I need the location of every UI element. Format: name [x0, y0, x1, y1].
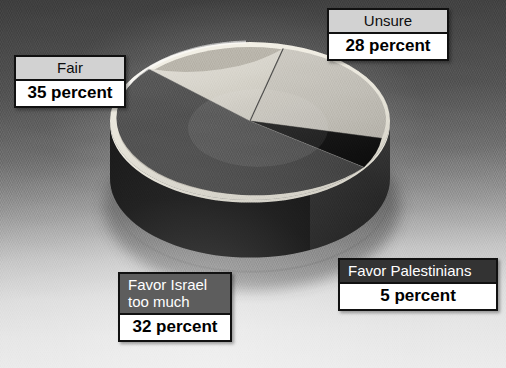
callout-favor-palestinians-value: 5 percent [340, 284, 496, 309]
callout-favor-israel: Favor Israel too much 32 percent [118, 272, 232, 342]
pie-chart-graphic: Fair 35 percent Unsure 28 percent Favor … [0, 0, 506, 368]
callout-fair: Fair 35 percent [14, 55, 126, 108]
callout-unsure-value: 28 percent [329, 34, 447, 59]
callout-unsure-title: Unsure [329, 10, 447, 34]
callout-fair-title: Fair [16, 57, 124, 81]
callout-favor-palestinians-title: Favor Palestinians [340, 260, 496, 284]
callout-fair-value: 35 percent [16, 81, 124, 106]
callout-favor-israel-value: 32 percent [120, 315, 230, 340]
callout-unsure: Unsure 28 percent [327, 8, 449, 61]
callout-favor-palestinians: Favor Palestinians 5 percent [338, 258, 498, 311]
callout-favor-israel-title: Favor Israel too much [120, 274, 230, 315]
